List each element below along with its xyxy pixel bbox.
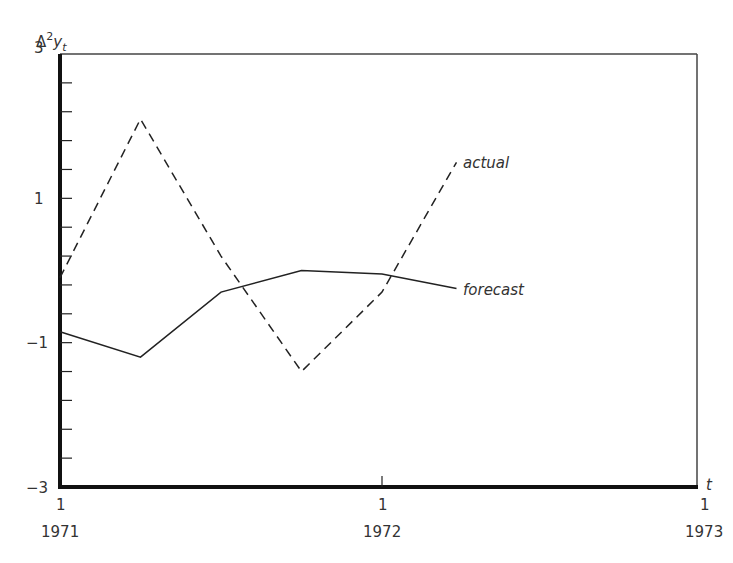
y-tick-label-1: 1 xyxy=(34,190,44,208)
forecast-label: forecast xyxy=(463,281,525,299)
forecast-series-line xyxy=(60,271,457,358)
x-tick-quarter: 1 xyxy=(378,496,388,514)
x-tick-year: 1971 xyxy=(41,523,79,541)
y-axis-label: Δ2yt xyxy=(36,30,67,54)
chart: 3 1 −1 −3 Δ2yt t 119711197211973 actual … xyxy=(0,0,733,563)
x-tick-year: 1973 xyxy=(685,523,723,541)
x-tick-year: 1972 xyxy=(363,523,401,541)
y-tick-label-neg3: −3 xyxy=(26,479,48,497)
x-tick-quarter: 1 xyxy=(700,496,710,514)
actual-series-line xyxy=(60,119,457,372)
x-axis-label: t xyxy=(706,476,713,494)
x-tick-quarter: 1 xyxy=(56,496,66,514)
y-tick-label-neg1: −1 xyxy=(26,334,48,352)
actual-label: actual xyxy=(463,154,510,172)
x-tick-labels: 119711197211973 xyxy=(41,496,723,541)
